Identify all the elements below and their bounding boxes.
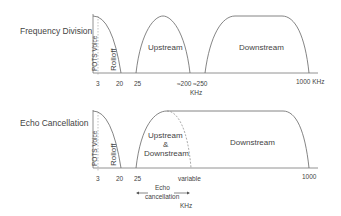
downstream-label: Downstream (230, 138, 275, 147)
pots-voice-label: POTS Voice (91, 35, 98, 71)
tick-25: 25 (134, 80, 142, 87)
ampersand-label: & (163, 140, 169, 149)
downstream-label: Downstream (239, 43, 284, 52)
pots-voice-label: POTS Voice (91, 130, 98, 166)
unit-label: KHz (180, 202, 192, 209)
panel-title: Frequency Division (20, 26, 93, 36)
tick-20: 20 (116, 175, 124, 182)
dsl-spectrum-diagram: Frequency Division POTS Voice Rolloff Up… (0, 0, 341, 216)
frequency-division-panel: Frequency Division POTS Voice Rolloff Up… (20, 14, 325, 96)
left-arrow-head-icon (136, 192, 139, 195)
upstream-label: Upstream (148, 43, 183, 52)
rolloff-label: Rolloff (109, 143, 118, 166)
tick-3: 3 (96, 80, 100, 87)
right-arrow-head-icon (187, 192, 190, 195)
tick-variable: variable (178, 175, 201, 182)
cancellation-label: cancellation (145, 193, 180, 200)
tick-20: 20 (116, 80, 124, 87)
tick-200: ≈200 (177, 80, 192, 87)
downstream-overlap-label: Downstream (144, 149, 189, 158)
panel-title: Echo Cancellation (20, 118, 89, 128)
echo-cancellation-panel: Echo Cancellation POTS Voice Rolloff Ups… (20, 110, 318, 209)
echo-label: Echo (155, 184, 170, 191)
upstream-label: Upstream (148, 131, 183, 140)
tick-25: 25 (134, 175, 142, 182)
tick-1000: 1000 (302, 173, 317, 180)
tick-1000: 1000 KHz (296, 78, 325, 85)
rolloff-label: Rolloff (109, 48, 118, 71)
unit-label: KHz (190, 89, 202, 96)
tick-250: ≈250 (193, 80, 208, 87)
tick-3: 3 (96, 175, 100, 182)
